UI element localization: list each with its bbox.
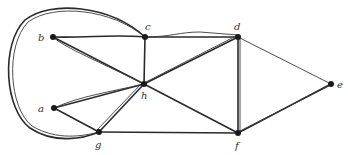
edge-a-g — [54, 108, 99, 132]
label-e: e — [337, 79, 343, 90]
node-e — [328, 81, 334, 87]
node-b — [50, 34, 56, 40]
label-d: d — [234, 21, 240, 32]
node-c — [142, 34, 148, 40]
label-g: g — [95, 139, 101, 150]
node-d — [235, 34, 241, 40]
label-h: h — [141, 90, 147, 101]
node-a — [51, 105, 57, 111]
edge-a-h — [54, 84, 144, 108]
edge-d-e — [238, 37, 331, 84]
edge-h-f — [144, 84, 238, 133]
node-g — [96, 129, 102, 135]
label-f: f — [234, 140, 241, 151]
label-c: c — [145, 21, 151, 32]
edge-g-f — [99, 132, 238, 133]
node-f — [235, 130, 241, 136]
edge-h-g — [99, 84, 144, 132]
label-a: a — [38, 103, 44, 114]
node-h — [141, 81, 147, 87]
edge-b-c — [53, 36, 145, 37]
graph-diagram: a b c d e f g h — [0, 0, 348, 155]
edge-d-h-stroke2 — [146, 36, 236, 82]
edge-e-f-stroke2 — [240, 86, 329, 131]
edge-c-h — [144, 37, 145, 84]
edge-d-h — [144, 37, 238, 84]
label-b: b — [38, 32, 44, 43]
